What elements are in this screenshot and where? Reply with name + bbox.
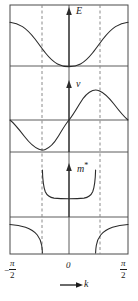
arrow-head-energy	[66, 7, 72, 15]
curve-effective-mass-negative-left	[10, 225, 42, 254]
axis-label-effective-mass: m*	[77, 162, 88, 174]
arrow-head-effective-mass	[66, 163, 72, 171]
fraction-right-numerator: π	[120, 259, 127, 268]
fraction-left-denominator: 2	[9, 271, 16, 280]
fraction-left: π 2	[9, 259, 16, 280]
tick-label-pi-over-2: π 2	[120, 259, 127, 280]
axis-label-energy: E	[76, 6, 82, 16]
arrow-head-k	[76, 282, 83, 288]
fraction-right-denominator: 2	[120, 271, 127, 280]
tick-label-minus-pi-over-2: − π 2	[4, 259, 16, 280]
plot-canvas	[0, 0, 138, 301]
axis-label-velocity: v	[76, 79, 80, 89]
physics-figure-band-structure: E v m* k − π 2 0 π 2	[0, 0, 138, 301]
axis-label-effective-mass-star: *	[84, 161, 88, 170]
fraction-left-numerator: π	[9, 259, 16, 268]
arrow-head-velocity	[66, 80, 72, 88]
tick-label-zero: 0	[66, 261, 71, 270]
fraction-right: π 2	[120, 259, 127, 280]
axis-label-k: k	[84, 279, 88, 289]
